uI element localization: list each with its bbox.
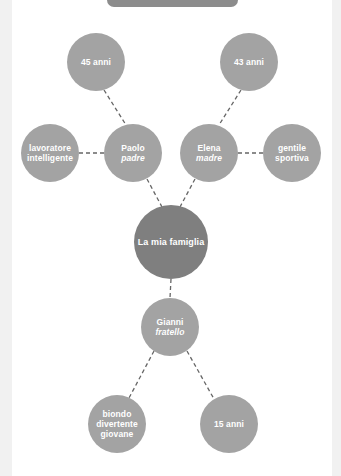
link-elena-center xyxy=(180,179,195,207)
trait-label: sportiva xyxy=(275,153,309,163)
node-father: Paolo padre xyxy=(104,124,162,182)
center-label: La mia famiglia xyxy=(138,237,205,247)
brother-role: fratello xyxy=(155,327,184,337)
link-43anni-elena xyxy=(219,90,241,125)
link-gianni-age xyxy=(187,351,214,399)
node-brother-age: 15 anni xyxy=(200,395,258,453)
trait-label: gentile xyxy=(278,143,306,153)
trait-label: biondo xyxy=(103,409,132,419)
link-center-gianni xyxy=(170,279,171,298)
father-role: padre xyxy=(121,153,145,163)
mother-age-label: 43 anni xyxy=(234,57,264,67)
trait-label: lavoratore xyxy=(29,143,71,153)
brother-age-label: 15 anni xyxy=(214,419,244,429)
link-gianni-traits xyxy=(129,351,154,398)
mother-role: madre xyxy=(196,153,222,163)
node-brother-traits: biondo divertente giovane xyxy=(88,395,146,453)
father-age-label: 45 anni xyxy=(81,57,111,67)
link-45anni-paolo xyxy=(104,90,126,125)
trait-label: intelligente xyxy=(27,153,73,163)
node-mother: Elena madre xyxy=(180,124,238,182)
node-father-traits: lavoratore intelligente xyxy=(21,124,79,182)
father-name: Paolo xyxy=(121,143,145,153)
node-mother-age: 43 anni xyxy=(220,33,278,91)
node-father-age: 45 anni xyxy=(67,33,125,91)
brother-name: Gianni xyxy=(156,317,183,327)
trait-label: giovane xyxy=(101,429,134,439)
link-paolo-center xyxy=(147,179,162,207)
node-brother: Gianni fratello xyxy=(141,298,199,356)
trait-label: divertente xyxy=(96,419,138,429)
node-mother-traits: gentile sportiva xyxy=(263,124,321,182)
mother-name: Elena xyxy=(197,143,220,153)
node-center-family: La mia famiglia xyxy=(134,205,208,279)
